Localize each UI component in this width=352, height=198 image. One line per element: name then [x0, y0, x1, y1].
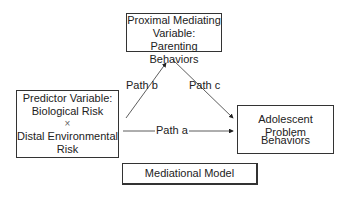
mediator-line2: Variable:	[127, 27, 221, 40]
predictor-line4: Distal Environmental	[17, 130, 118, 143]
predictor-variable-box: Predictor Variable: Biological Risk × Di…	[16, 90, 119, 158]
outcome-variable-box: Adolescent Problem Behaviors	[237, 105, 334, 154]
mediator-variable-box: Proximal Mediating Variable: Parenting B…	[126, 13, 222, 52]
diagram-caption: Mediational Model	[122, 163, 258, 185]
interaction-symbol: ×	[17, 118, 118, 130]
outcome-line2: Behaviors	[238, 134, 333, 147]
path-a-label: Path a	[155, 124, 189, 136]
path-b-label: Path b	[126, 79, 158, 91]
predictor-line1: Predictor Variable:	[17, 92, 118, 105]
path-c-label: Path c	[189, 79, 220, 91]
predictor-line2: Biological Risk	[17, 105, 118, 118]
predictor-line5: Risk	[17, 143, 118, 156]
mediator-line1: Proximal Mediating	[127, 14, 221, 27]
mediator-line3: Parenting Behaviors	[127, 40, 221, 66]
